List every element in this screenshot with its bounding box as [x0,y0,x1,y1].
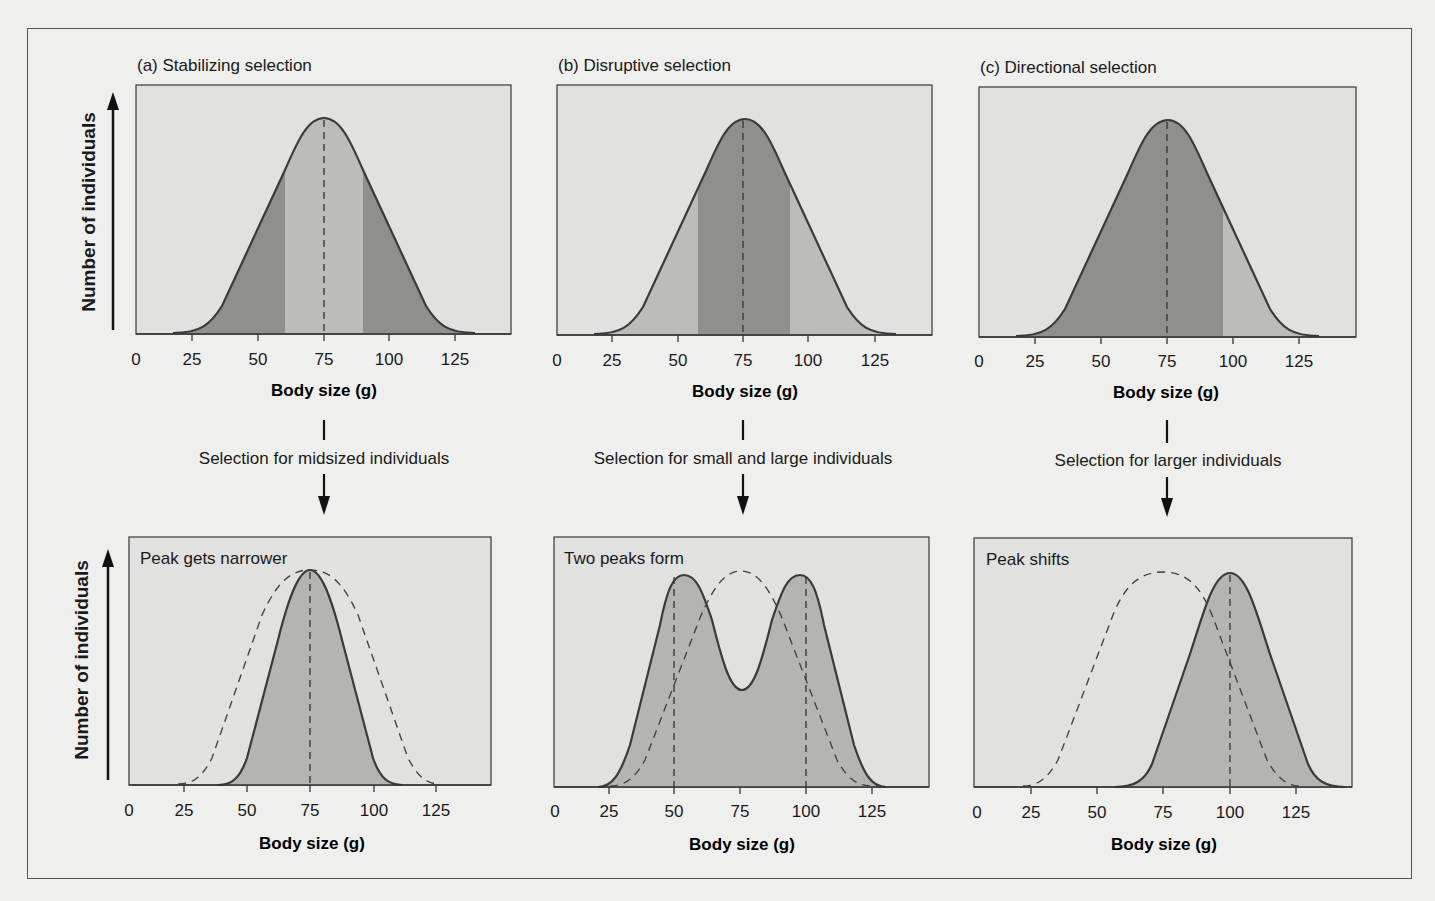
connector-b: Selection for small and large individual… [594,420,893,515]
svg-text:75: 75 [1158,352,1177,371]
x-axis-label: Body size (g) [271,381,377,400]
svg-text:75: 75 [301,801,320,820]
x-axis-label: Body size (g) [689,835,795,854]
x-tick-labels: 0 25 50 75 100 125 [552,351,889,370]
arrow-down-icon [318,496,330,515]
panel-c-original: (c) Directional selection 0 25 50 75 100… [974,58,1356,402]
panel-b-original: (b) Disruptive selection 0 25 50 75 100 … [552,56,932,401]
svg-text:100: 100 [1219,352,1247,371]
arrow-down-icon [737,496,749,515]
svg-text:25: 25 [603,351,622,370]
svg-text:75: 75 [315,350,334,369]
y-axis-bottom: Number of individuals [71,549,114,780]
svg-text:125: 125 [1285,352,1313,371]
svg-text:75: 75 [734,351,753,370]
y-axis-label: Number of individuals [78,112,99,312]
svg-text:75: 75 [731,802,750,821]
arrow-up-icon [102,549,114,567]
svg-text:50: 50 [238,801,257,820]
panel-a-original: (a) Stabilizing selection 0 25 50 75 100… [131,56,511,400]
svg-text:0: 0 [552,351,561,370]
x-tick-labels: 0 25 50 75 100 125 [124,801,450,820]
svg-text:50: 50 [1088,803,1107,822]
arrow-down-icon [1161,498,1173,517]
x-axis-label: Body size (g) [692,382,798,401]
svg-text:0: 0 [550,802,559,821]
svg-text:25: 25 [175,801,194,820]
selection-label: Selection for small and large individual… [594,449,893,468]
x-tick-labels: 0 25 50 75 100 125 [974,352,1313,371]
panel-title: (a) Stabilizing selection [137,56,312,75]
panel-title: (b) Disruptive selection [558,56,731,75]
svg-text:50: 50 [665,802,684,821]
svg-text:50: 50 [249,350,268,369]
svg-text:0: 0 [974,352,983,371]
svg-text:100: 100 [794,351,822,370]
y-axis-top: Number of individuals [78,92,119,330]
svg-text:0: 0 [972,803,981,822]
result-label: Peak shifts [986,550,1069,569]
panel-b-result: Two peaks form 0 25 50 75 100 125 Body s… [550,537,929,854]
arrow-up-icon [107,92,119,110]
selection-label: Selection for midsized individuals [199,449,449,468]
x-axis-label: Body size (g) [1111,835,1217,854]
svg-text:75: 75 [1154,803,1173,822]
panel-c-result: Peak shifts 0 25 50 75 100 125 Body size… [972,538,1352,854]
svg-text:100: 100 [792,802,820,821]
svg-text:125: 125 [422,801,450,820]
svg-text:25: 25 [1026,352,1045,371]
svg-text:100: 100 [360,801,388,820]
panel-a-result: Peak gets narrower 0 25 50 75 100 125 Bo… [124,537,491,853]
x-axis-label: Body size (g) [259,834,365,853]
x-tick-labels: 0 25 50 75 100 125 [550,802,886,821]
svg-text:125: 125 [1282,803,1310,822]
result-label: Two peaks form [564,549,684,568]
svg-text:0: 0 [131,350,140,369]
connector-c: Selection for larger individuals [1055,420,1282,517]
svg-text:100: 100 [1216,803,1244,822]
selection-figure: Number of individuals (a) Stabilizing se… [0,0,1435,901]
svg-text:50: 50 [669,351,688,370]
selection-label: Selection for larger individuals [1055,451,1282,470]
connector-a: Selection for midsized individuals [199,420,449,515]
svg-text:25: 25 [600,802,619,821]
svg-text:0: 0 [124,801,133,820]
x-tick-labels: 0 25 50 75 100 125 [972,803,1310,822]
svg-text:25: 25 [183,350,202,369]
y-axis-label: Number of individuals [71,560,92,760]
svg-text:100: 100 [375,350,403,369]
svg-text:125: 125 [861,351,889,370]
svg-text:25: 25 [1022,803,1041,822]
x-axis-label: Body size (g) [1113,383,1219,402]
svg-text:125: 125 [858,802,886,821]
svg-text:125: 125 [441,350,469,369]
svg-text:50: 50 [1092,352,1111,371]
x-tick-labels: 0 25 50 75 100 125 [131,350,469,369]
panel-title: (c) Directional selection [980,58,1157,77]
result-label: Peak gets narrower [140,549,288,568]
